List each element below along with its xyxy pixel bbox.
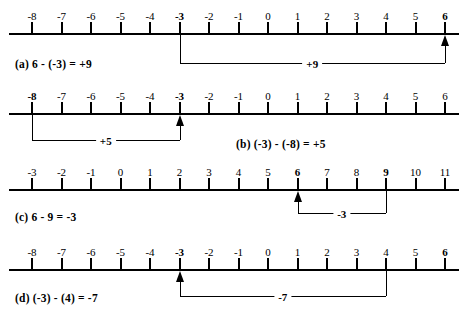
tick-mark bbox=[297, 102, 299, 113]
tick-mark bbox=[238, 22, 240, 33]
equation-label-d: (d) (-3) - (4) = -7 bbox=[15, 292, 98, 304]
axis-tick-label: 3 bbox=[354, 247, 360, 258]
tick-mark bbox=[297, 178, 299, 189]
axis-tick-label: -8 bbox=[27, 91, 36, 102]
jump-arrowhead bbox=[176, 271, 184, 282]
equation-label-c: (c) 6 - 9 = -3 bbox=[15, 211, 76, 223]
tick-mark bbox=[326, 22, 328, 33]
tick-mark bbox=[149, 258, 151, 269]
axis-tick-label: 6 bbox=[295, 167, 301, 178]
equation-label-b: (b) (-3) - (-8) = +5 bbox=[236, 138, 326, 150]
axis-tick-label: -6 bbox=[86, 91, 95, 102]
axis-tick-label: 0 bbox=[265, 91, 271, 102]
tick-mark bbox=[326, 178, 328, 189]
tick-mark bbox=[238, 102, 240, 113]
axis-tick-label: -8 bbox=[27, 11, 36, 22]
tick-mark bbox=[326, 102, 328, 113]
number-line-axis-b bbox=[9, 113, 459, 115]
tick-mark bbox=[61, 102, 63, 113]
tick-mark bbox=[120, 102, 122, 113]
axis-tick-label: 1 bbox=[147, 167, 153, 178]
axis-tick-label: -7 bbox=[57, 247, 66, 258]
axis-tick-label: 3 bbox=[354, 91, 360, 102]
axis-tick-label: 4 bbox=[236, 167, 242, 178]
bracket-end-stem bbox=[180, 281, 181, 296]
axis-tick-label: -4 bbox=[145, 11, 154, 22]
tick-mark bbox=[385, 102, 387, 113]
tick-mark bbox=[90, 102, 92, 113]
axis-tick-label: -2 bbox=[204, 11, 213, 22]
tick-mark bbox=[326, 258, 328, 269]
axis-tick-label: 1 bbox=[295, 11, 301, 22]
tick-mark bbox=[179, 102, 181, 113]
tick-mark bbox=[415, 22, 417, 33]
axis-tick-label: -6 bbox=[86, 247, 95, 258]
axis-tick-label: 8 bbox=[354, 167, 360, 178]
tick-mark bbox=[179, 258, 181, 269]
tick-mark bbox=[31, 178, 33, 189]
tick-mark bbox=[444, 102, 446, 113]
axis-tick-label: 0 bbox=[118, 167, 124, 178]
tick-mark bbox=[120, 178, 122, 189]
tick-mark bbox=[444, 22, 446, 33]
axis-tick-label: -5 bbox=[116, 11, 125, 22]
axis-tick-label: 7 bbox=[324, 167, 330, 178]
jump-value-label: -3 bbox=[333, 209, 350, 220]
tick-mark bbox=[208, 22, 210, 33]
tick-mark bbox=[385, 258, 387, 269]
axis-tick-label: 11 bbox=[440, 167, 451, 178]
axis-tick-label: -7 bbox=[57, 91, 66, 102]
axis-tick-label: -7 bbox=[57, 11, 66, 22]
axis-tick-label: -1 bbox=[234, 91, 243, 102]
axis-tick-label: -2 bbox=[204, 247, 213, 258]
tick-mark bbox=[61, 258, 63, 269]
tick-mark bbox=[90, 178, 92, 189]
axis-tick-label: 6 bbox=[442, 11, 448, 22]
axis-tick-label: 5 bbox=[265, 167, 271, 178]
equation-label-a: (a) 6 - (-3) = +9 bbox=[15, 58, 92, 70]
axis-tick-label: 6 bbox=[442, 247, 448, 258]
axis-tick-label: 4 bbox=[383, 247, 389, 258]
tick-mark bbox=[149, 102, 151, 113]
axis-tick-label: 2 bbox=[324, 247, 330, 258]
tick-mark bbox=[297, 22, 299, 33]
jump-value-label: +5 bbox=[96, 136, 116, 147]
axis-tick-label: -4 bbox=[145, 247, 154, 258]
tick-mark bbox=[120, 22, 122, 33]
axis-tick-label: 5 bbox=[413, 247, 419, 258]
tick-mark bbox=[415, 258, 417, 269]
tick-mark bbox=[415, 178, 417, 189]
tick-mark bbox=[90, 258, 92, 269]
bracket-end-stem bbox=[298, 201, 299, 213]
tick-mark bbox=[120, 258, 122, 269]
tick-mark bbox=[61, 22, 63, 33]
axis-tick-label: 4 bbox=[383, 11, 389, 22]
jump-value-label: -7 bbox=[274, 292, 291, 303]
tick-mark bbox=[267, 178, 269, 189]
tick-mark bbox=[61, 178, 63, 189]
axis-tick-label: -6 bbox=[86, 11, 95, 22]
axis-tick-label: -2 bbox=[204, 91, 213, 102]
tick-mark bbox=[444, 178, 446, 189]
axis-tick-label: -5 bbox=[116, 247, 125, 258]
bracket-start-stem bbox=[386, 191, 387, 213]
axis-tick-label: 5 bbox=[413, 11, 419, 22]
bracket-start-stem bbox=[32, 115, 33, 140]
axis-tick-label: -1 bbox=[86, 167, 95, 178]
tick-mark bbox=[238, 258, 240, 269]
axis-tick-label: 1 bbox=[295, 247, 301, 258]
tick-mark bbox=[444, 258, 446, 269]
tick-mark bbox=[149, 22, 151, 33]
axis-tick-label: 10 bbox=[410, 167, 421, 178]
axis-tick-label: 0 bbox=[265, 11, 271, 22]
axis-tick-label: -3 bbox=[27, 167, 36, 178]
axis-tick-label: -5 bbox=[116, 91, 125, 102]
axis-tick-label: 2 bbox=[324, 11, 330, 22]
bracket-start-stem bbox=[180, 35, 181, 63]
axis-tick-label: 2 bbox=[177, 167, 183, 178]
axis-tick-label: 6 bbox=[442, 91, 448, 102]
jump-value-label: +9 bbox=[302, 59, 322, 70]
axis-tick-label: -1 bbox=[234, 11, 243, 22]
tick-mark bbox=[31, 258, 33, 269]
tick-mark bbox=[208, 178, 210, 189]
